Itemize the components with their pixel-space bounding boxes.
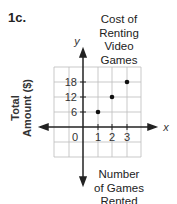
x-axis-left-arrow-icon [40, 124, 48, 130]
chart-plot: y x 6 12 18 0 1 2 3 [0, 0, 177, 204]
origin-label: 0 [72, 131, 78, 143]
x-tick-label: 3 [124, 131, 130, 143]
x-axis-symbol: x [162, 121, 169, 133]
y-tick-label: 6 [71, 106, 77, 118]
y-tick-label: 18 [65, 76, 77, 88]
data-point [96, 110, 101, 115]
x-tick-label: 1 [95, 131, 101, 143]
y-tick-label: 12 [65, 91, 77, 103]
y-axis-up-arrow-icon [80, 49, 86, 57]
y-axis-symbol: y [73, 35, 81, 47]
data-point [110, 95, 115, 100]
x-axis-right-arrow-icon [148, 124, 156, 130]
ticks [80, 82, 127, 130]
y-axis-down-arrow-icon [80, 177, 86, 185]
data-point [125, 80, 130, 85]
x-tick-label: 2 [109, 131, 115, 143]
